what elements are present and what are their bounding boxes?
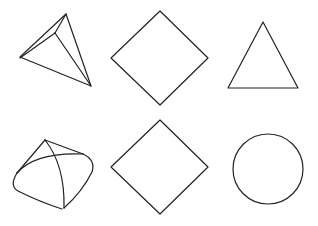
rounded-pyramid-shape: [13, 140, 93, 209]
shapes-figure: [0, 0, 318, 226]
diamond-shape-bottom: [111, 120, 208, 214]
diamond-shape-top: [111, 11, 208, 105]
shapes-svg: [0, 0, 318, 226]
circle-shape: [233, 134, 303, 204]
triangular-pyramid-shape: [20, 14, 91, 86]
triangle-shape: [228, 22, 298, 88]
